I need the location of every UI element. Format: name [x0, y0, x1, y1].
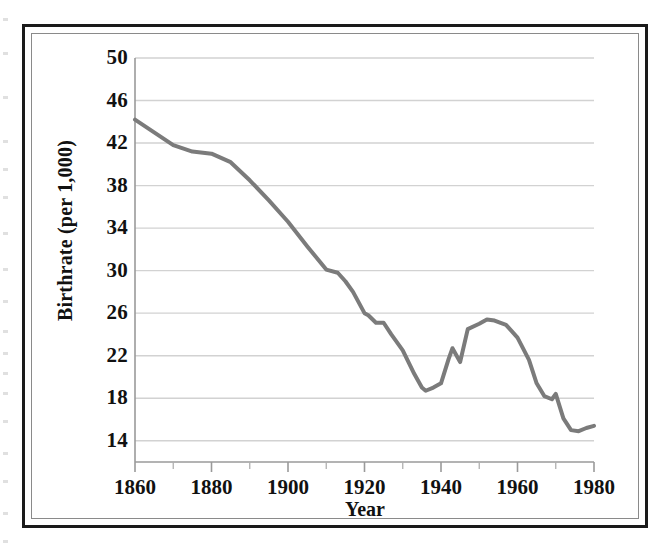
y-axis-title-text: Birthrate (per 1,000) [54, 139, 77, 320]
x-tick-label-1880: 1880 [172, 477, 252, 498]
x-axis-tick-labels: 1860188019001920194019601980 [0, 0, 669, 554]
x-tick-label-1940: 1940 [401, 477, 481, 498]
x-tick-label-1860: 1860 [95, 477, 175, 498]
x-tick-label-1960: 1960 [478, 477, 558, 498]
x-tick-label-1920: 1920 [325, 477, 405, 498]
x-tick-label-1980: 1980 [554, 477, 634, 498]
x-axis-title: Year [135, 498, 595, 521]
x-tick-label-1900: 1900 [248, 477, 328, 498]
y-axis-title: Birthrate (per 1,000) [50, 0, 80, 460]
birthrate-line-chart: 14182226303438424650 1860188019001920194… [0, 0, 669, 554]
